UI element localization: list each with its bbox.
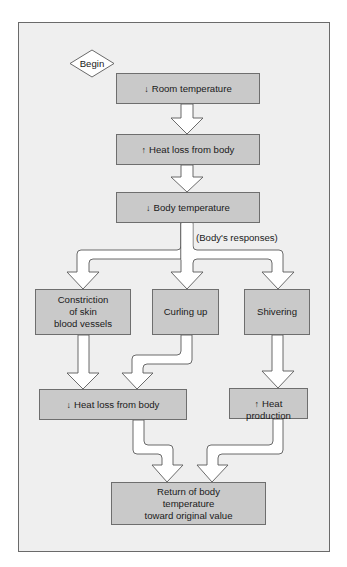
- decrease-arrow-icon: ↓: [144, 83, 149, 95]
- node-return-to-original: Return of body temperature toward origin…: [111, 482, 266, 525]
- node-label: Heat production: [246, 398, 291, 421]
- arrow-heatloss-to-return: [133, 420, 183, 482]
- arrow-bodytemp-to-constriction: [67, 223, 181, 289]
- heat-production-content: ↑Heat production: [246, 386, 291, 422]
- node-shivering: Shivering: [244, 289, 310, 335]
- node-room-temperature: ↓ Room temperature: [116, 73, 260, 104]
- node-label: Room temperature: [152, 83, 232, 95]
- node-label: Constriction of skin blood vessels: [54, 294, 112, 330]
- arrow-curling-to-heatloss: [122, 335, 192, 389]
- node-curling-up: Curling up: [152, 289, 219, 335]
- node-label: Heat loss from body: [149, 144, 234, 156]
- node-label: Curling up: [164, 306, 208, 318]
- node-heat-loss-increase: ↑ Heat loss from body: [116, 134, 260, 165]
- node-heat-production: ↑Heat production: [229, 388, 308, 419]
- arrow-room-to-heatloss: [171, 104, 203, 134]
- node-label: Heat loss from body: [74, 399, 159, 411]
- decrease-arrow-icon: ↓: [67, 399, 72, 411]
- arrow-constriction-to-heatloss: [67, 335, 99, 389]
- arrow-shivering-to-heatproduction: [262, 335, 294, 388]
- branch-label: (Body's responses): [196, 232, 278, 243]
- begin-label: Begin: [69, 50, 115, 77]
- node-label: Return of body temperature toward origin…: [145, 486, 233, 522]
- node-label: Shivering: [257, 306, 297, 318]
- increase-arrow-icon: ↑: [255, 399, 260, 409]
- node-label: Body temperature: [154, 202, 230, 214]
- increase-arrow-icon: ↑: [142, 144, 147, 156]
- arrow-heatloss-to-bodytemp: [171, 165, 203, 192]
- node-body-temperature: ↓ Body temperature: [116, 192, 260, 223]
- decrease-arrow-icon: ↓: [146, 202, 151, 214]
- begin-node: Begin: [69, 50, 115, 77]
- node-constriction: Constriction of skin blood vessels: [35, 289, 131, 335]
- node-heat-loss-decrease: ↓ Heat loss from body: [39, 389, 187, 420]
- arrow-heatproduction-to-return: [197, 419, 283, 482]
